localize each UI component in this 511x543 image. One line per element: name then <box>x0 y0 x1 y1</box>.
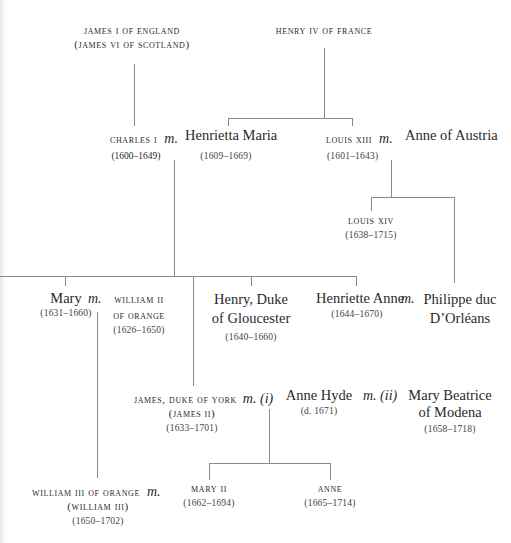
person-name: Mary <box>38 290 94 307</box>
person-name: James I of England <box>58 24 206 36</box>
person-dates: (1640–1660) <box>208 330 294 344</box>
person-philippe: Philippe duc D’Orléans <box>420 290 500 328</box>
person-name: Anne Hyde <box>282 387 356 404</box>
person-name: Charles I <box>110 133 157 145</box>
person-name: Anne <box>303 482 357 494</box>
person-william-ii: William II of Orange (1626–1650) <box>108 293 170 335</box>
person-dates: (1626–1650) <box>108 325 170 335</box>
marriage-marker: m. <box>401 291 415 307</box>
connector-to-philippe <box>454 197 455 283</box>
person-james-ii: James, Duke of York m. (i) <box>134 389 273 407</box>
person-dates: (1644–1670) <box>316 309 398 319</box>
person-dates: (d. 1671) <box>282 406 356 416</box>
person-name: Henriette Anne <box>316 290 398 307</box>
connector-charles-children-bar <box>0 276 357 277</box>
person-name-line1: Henry, Duke <box>208 290 294 309</box>
person-william-iii-details: (William III) (1650–1702) <box>58 500 138 526</box>
connector-james-ii-children-bar <box>209 463 331 464</box>
person-anne-hyde: Anne Hyde (d. 1671) <box>282 387 356 416</box>
person-henrietta-maria: Henrietta Maria <box>185 127 277 144</box>
connector-to-mary-ii <box>209 463 210 480</box>
marriage-marker: m. (i) <box>243 391 273 406</box>
connector-to-henrietta-maria <box>228 118 229 126</box>
person-alt-title: (William III) <box>58 500 138 512</box>
marriage-marker: m. <box>147 484 161 499</box>
person-name-line1: Mary Beatrice <box>400 387 500 404</box>
connector-henry-iv-down <box>324 48 325 118</box>
person-name: James, Duke of York <box>134 393 237 405</box>
person-dates: (1650–1702) <box>58 516 138 526</box>
person-dates: (1665–1714) <box>303 498 357 508</box>
person-dates: (1600–1649) <box>110 151 162 161</box>
person-name-line2: of Orange <box>108 309 170 321</box>
person-alt-title: (James II) <box>154 407 230 419</box>
connector-to-mary <box>65 276 66 286</box>
page-edge-shadow <box>0 0 6 543</box>
person-henry-iv: Henry IV of France <box>264 24 384 36</box>
person-anne: Anne (1665–1714) <box>303 482 357 508</box>
person-james-i: James I of England (James VI of Scotland… <box>58 24 206 50</box>
marriage-marker: m. <box>379 131 393 146</box>
person-name-line2: D’Orléans <box>420 309 500 328</box>
person-dates: (1638–1715) <box>344 230 398 240</box>
person-name: Henry IV of France <box>264 24 384 36</box>
person-dates: (1658–1718) <box>400 424 500 434</box>
marriage-marker: m. <box>164 131 178 146</box>
person-anne-of-austria: Anne of Austria <box>405 127 498 144</box>
connector-mary-to-william-iii <box>97 312 98 478</box>
person-name-line2: of Gloucester <box>208 309 294 328</box>
person-name-line2: of Modena <box>400 404 500 421</box>
person-name-line1: William II <box>108 293 170 305</box>
person-dates: (1609–1669) <box>200 151 252 161</box>
person-alt-title: (James VI of Scotland) <box>58 38 206 50</box>
person-name: William III of Orange <box>32 486 140 498</box>
connector-charles-down <box>174 160 175 276</box>
connector-to-henry-gloucester <box>251 276 252 286</box>
connector-james-i-to-charles <box>134 64 135 126</box>
person-dates: (1631–1660) <box>38 308 94 318</box>
connector-to-anne <box>330 463 331 480</box>
connector-to-james-ii <box>193 276 194 386</box>
person-dates: (1633–1701) <box>154 423 230 433</box>
marriage-marker: m. <box>88 291 102 307</box>
person-name-line1: Philippe duc <box>420 290 500 309</box>
person-james-ii-details: (James II) (1633–1701) <box>154 407 230 433</box>
person-henry-gloucester: Henry, Duke of Gloucester (1640–1660) <box>208 290 294 344</box>
connector-henry-iv-children-bar <box>228 118 353 119</box>
connector-to-louis-xiv <box>371 197 372 211</box>
person-louis-xiii: Louis XIII m. <box>326 129 393 147</box>
connector-james-ii-down <box>269 409 270 464</box>
person-william-iii: William III of Orange m. <box>32 482 161 500</box>
connector-louis-xiii-down <box>391 160 392 197</box>
person-charles-i: Charles I m. <box>110 129 178 147</box>
person-louis-xiv: Louis XIV (1638–1715) <box>344 214 398 240</box>
person-mary-ii: Mary II (1662–1694) <box>182 482 236 508</box>
person-name: Louis XIII <box>326 133 372 145</box>
marriage-marker: m. (ii) <box>363 388 397 404</box>
person-name: Mary II <box>182 482 236 494</box>
person-henriette-anne: Henriette Anne (1644–1670) <box>316 290 398 319</box>
person-mary-beatrice: Mary Beatrice of Modena (1658–1718) <box>400 387 500 434</box>
connector-to-henriette-anne <box>356 276 357 286</box>
person-dates: (1662–1694) <box>182 498 236 508</box>
person-name: Louis XIV <box>344 214 398 226</box>
person-dates: (1601–1643) <box>327 151 378 161</box>
person-mary: Mary (1631–1660) <box>38 290 94 318</box>
connector-to-louis-xiii <box>352 118 353 126</box>
connector-louis-xiii-children-bar <box>371 197 455 198</box>
